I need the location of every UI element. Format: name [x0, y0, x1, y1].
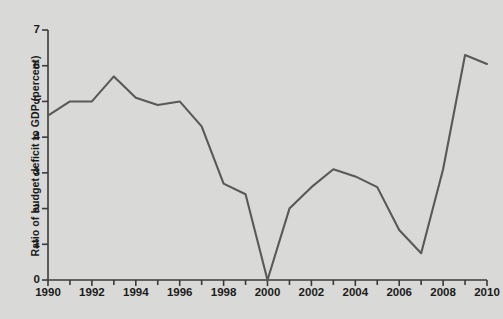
chart-container: Ratio of budget deficit to GDP (percent)…: [0, 0, 503, 319]
data-line-series-0: [48, 55, 487, 280]
plot-area: [0, 0, 503, 319]
